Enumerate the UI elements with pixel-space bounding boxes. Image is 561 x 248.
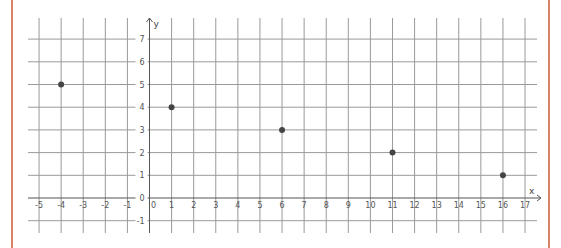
y-tick-label: 3 <box>139 126 144 135</box>
y-tick-label: 0 <box>139 194 144 203</box>
x-tick-label: 6 <box>279 201 284 210</box>
x-tick-label: 17 <box>520 201 530 210</box>
x-tick-label: -3 <box>79 201 87 210</box>
y-tick-label: -1 <box>137 217 145 226</box>
x-tick-label: 13 <box>432 201 442 210</box>
y-tick-label: 2 <box>139 149 144 158</box>
x-tick-label: 14 <box>454 201 464 210</box>
x-tick-label: 1 <box>169 201 174 210</box>
x-tick-label: 3 <box>213 201 218 210</box>
x-tick-label: 7 <box>302 201 307 210</box>
data-point <box>500 172 506 178</box>
x-tick-label: 8 <box>324 201 329 210</box>
y-tick-label: 4 <box>139 103 144 112</box>
x-tick-label: -5 <box>35 201 43 210</box>
data-point <box>58 82 64 88</box>
data-point <box>389 150 395 156</box>
x-tick-label: -1 <box>123 201 131 210</box>
x-tick-label: 15 <box>476 201 486 210</box>
x-tick-label: 11 <box>387 201 397 210</box>
x-tick-label: 4 <box>235 201 240 210</box>
x-tick-label: -2 <box>101 201 109 210</box>
data-point <box>279 127 285 133</box>
y-axis-label: y <box>154 19 160 29</box>
x-axis-label: x <box>529 186 535 196</box>
x-tick-label: -4 <box>57 201 65 210</box>
x-tick-label: 2 <box>191 201 196 210</box>
x-tick-label: 0 <box>151 201 156 210</box>
x-tick-label: 16 <box>498 201 508 210</box>
y-tick-label: 7 <box>139 35 144 44</box>
y-tick-label: 6 <box>139 58 144 67</box>
x-tick-label: 5 <box>257 201 262 210</box>
y-tick-label: 1 <box>139 171 144 180</box>
y-tick-label: 5 <box>139 81 144 90</box>
x-tick-label: 12 <box>409 201 419 210</box>
data-point <box>169 104 175 110</box>
x-tick-label: 9 <box>346 201 351 210</box>
x-tick-label: 10 <box>365 201 375 210</box>
